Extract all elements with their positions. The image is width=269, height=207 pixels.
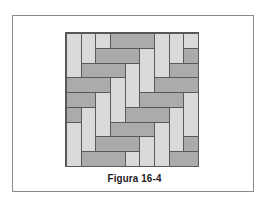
tile-dark (81, 63, 126, 79)
tile-light (154, 33, 170, 78)
tile-dark (139, 92, 184, 108)
tile-dark (183, 136, 199, 152)
tile-light (81, 107, 97, 152)
tile-light (95, 33, 111, 49)
tile-light (110, 77, 126, 122)
tile-dark (66, 107, 82, 123)
tile-dark (154, 77, 199, 93)
figure-caption: Figura 16-4 (20, 172, 249, 184)
tile-dark (81, 151, 126, 167)
tile-dark (95, 136, 140, 152)
herringbone-tile-pattern (66, 33, 198, 166)
tile-light (183, 33, 199, 49)
tile-dark (110, 122, 155, 138)
tile-dark (169, 151, 199, 167)
tile-dark (110, 33, 155, 49)
tile-dark (183, 48, 199, 64)
tile-light (139, 48, 155, 93)
tile-dark (95, 48, 140, 64)
tile-light (139, 136, 155, 167)
tile-light (169, 107, 185, 152)
tile-dark (66, 77, 111, 93)
tile-light (125, 63, 141, 108)
tile-light (169, 33, 185, 64)
tile-light (66, 122, 82, 167)
tile-light (125, 151, 141, 167)
tile-light (81, 33, 97, 64)
tile-dark (125, 107, 170, 123)
tile-light (95, 92, 111, 137)
tile-dark (169, 63, 199, 79)
tile-light (183, 92, 199, 137)
tile-dark (66, 92, 96, 108)
tile-light (66, 33, 82, 78)
tile-light (154, 122, 170, 167)
